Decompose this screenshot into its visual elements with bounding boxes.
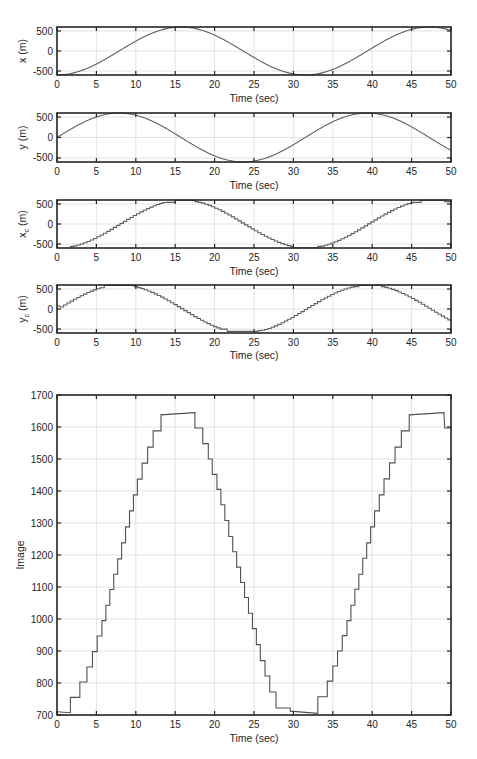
x-tick-label: 10	[130, 79, 142, 90]
x-tick-label: 30	[288, 166, 300, 177]
y-tick-label: 1600	[31, 422, 54, 433]
x-tick-label: 0	[54, 79, 60, 90]
y-tick-label: 1100	[31, 582, 53, 593]
x-tick-label: 5	[94, 337, 100, 348]
y-axis-label: yc (m)	[16, 295, 31, 323]
x-tick-label: 50	[445, 79, 457, 90]
chart-x-c: 05101520253035404550-5000500Time (sec)xc…	[16, 199, 457, 278]
x-tick-label: 25	[248, 79, 260, 90]
y-tick-label: -500	[33, 239, 53, 250]
chart-y-c: 05101520253035404550-5000500Time (sec)yc…	[16, 284, 457, 362]
y-tick-label: 500	[36, 26, 53, 37]
figure: 05101520253035404550-5000500Time (sec)x …	[0, 0, 477, 759]
x-axis-label: Time (sec)	[229, 349, 278, 361]
y-axis-label: xc (m)	[16, 210, 31, 238]
y-tick-label: 1200	[31, 550, 54, 561]
grid	[57, 395, 451, 715]
x-tick-label: 50	[445, 166, 457, 177]
x-axis-label: Time (sec)	[229, 732, 278, 744]
grid	[57, 113, 451, 162]
x-tick-label: 10	[130, 719, 142, 730]
x-tick-label: 20	[209, 79, 221, 90]
x-tick-label: 30	[288, 79, 300, 90]
y-tick-label: 0	[47, 304, 53, 315]
x-tick-label: 0	[54, 337, 60, 348]
y-tick-label: 0	[47, 219, 53, 230]
x-tick-label: 5	[94, 252, 100, 263]
x-tick-label: 35	[327, 79, 339, 90]
y-tick-label: 0	[47, 46, 53, 57]
x-tick-label: 45	[406, 719, 418, 730]
x-tick-label: 0	[54, 719, 60, 730]
x-tick-label: 15	[170, 337, 182, 348]
x-tick-label: 35	[327, 166, 339, 177]
x-tick-label: 35	[327, 719, 339, 730]
y-tick-label: 1300	[31, 518, 54, 529]
x-tick-label: 20	[209, 166, 221, 177]
x-tick-label: 40	[367, 252, 379, 263]
y-axis-label: Image	[14, 540, 26, 569]
x-tick-label: 0	[54, 166, 60, 177]
grid	[57, 27, 451, 75]
x-axis-label: Time (sec)	[229, 92, 278, 104]
x-tick-label: 30	[288, 719, 300, 730]
x-tick-label: 15	[170, 719, 182, 730]
x-tick-label: 40	[367, 79, 379, 90]
chart-image: 0510152025303540455070080090010001100120…	[14, 390, 457, 745]
chart-y: 05101520253035404550-5000500Time (sec)y …	[16, 112, 457, 191]
x-tick-label: 40	[367, 337, 379, 348]
x-tick-label: 30	[288, 252, 300, 263]
x-tick-label: 45	[406, 79, 418, 90]
y-tick-label: 1500	[31, 454, 54, 465]
x-tick-label: 20	[209, 719, 221, 730]
x-tick-label: 25	[248, 252, 260, 263]
x-tick-label: 50	[445, 719, 457, 730]
y-tick-label: -500	[33, 152, 53, 163]
x-tick-label: 10	[130, 252, 142, 263]
x-tick-label: 35	[327, 252, 339, 263]
x-tick-label: 20	[209, 337, 221, 348]
x-axis-label: Time (sec)	[229, 179, 278, 191]
y-tick-label: 500	[36, 199, 53, 210]
y-tick-label: 700	[36, 710, 53, 721]
x-tick-label: 0	[54, 252, 60, 263]
x-tick-label: 20	[209, 252, 221, 263]
x-tick-label: 45	[406, 252, 418, 263]
x-tick-label: 10	[130, 337, 142, 348]
x-tick-label: 45	[406, 337, 418, 348]
x-tick-label: 50	[445, 337, 457, 348]
x-tick-label: 5	[94, 166, 100, 177]
y-tick-label: -500	[33, 324, 53, 335]
y-tick-label: 500	[36, 112, 53, 123]
y-tick-label: 500	[36, 284, 53, 295]
x-tick-label: 25	[248, 166, 260, 177]
x-tick-label: 15	[170, 166, 182, 177]
x-tick-label: 5	[94, 719, 100, 730]
y-tick-label: 1400	[31, 486, 54, 497]
x-tick-label: 30	[288, 337, 300, 348]
x-tick-label: 45	[406, 166, 418, 177]
x-tick-label: 25	[248, 337, 260, 348]
y-axis-label: x (m)	[16, 39, 28, 63]
y-tick-label: -500	[33, 66, 53, 77]
y-tick-label: 1000	[31, 614, 54, 625]
y-axis-label: y (m)	[16, 126, 28, 150]
x-tick-label: 15	[170, 79, 182, 90]
x-tick-label: 10	[130, 166, 142, 177]
x-tick-label: 35	[327, 337, 339, 348]
x-tick-label: 40	[367, 166, 379, 177]
y-tick-label: 800	[36, 678, 53, 689]
grid	[57, 200, 451, 248]
x-tick-label: 40	[367, 719, 379, 730]
y-tick-label: 0	[47, 132, 53, 143]
x-axis-label: Time (sec)	[229, 265, 278, 277]
y-tick-label: 1700	[31, 390, 54, 401]
chart-x: 05101520253035404550-5000500Time (sec)x …	[16, 26, 457, 105]
grid	[57, 285, 451, 333]
x-tick-label: 15	[170, 252, 182, 263]
y-tick-label: 900	[36, 646, 53, 657]
x-tick-label: 25	[248, 719, 260, 730]
x-tick-label: 5	[94, 79, 100, 90]
x-tick-label: 50	[445, 252, 457, 263]
